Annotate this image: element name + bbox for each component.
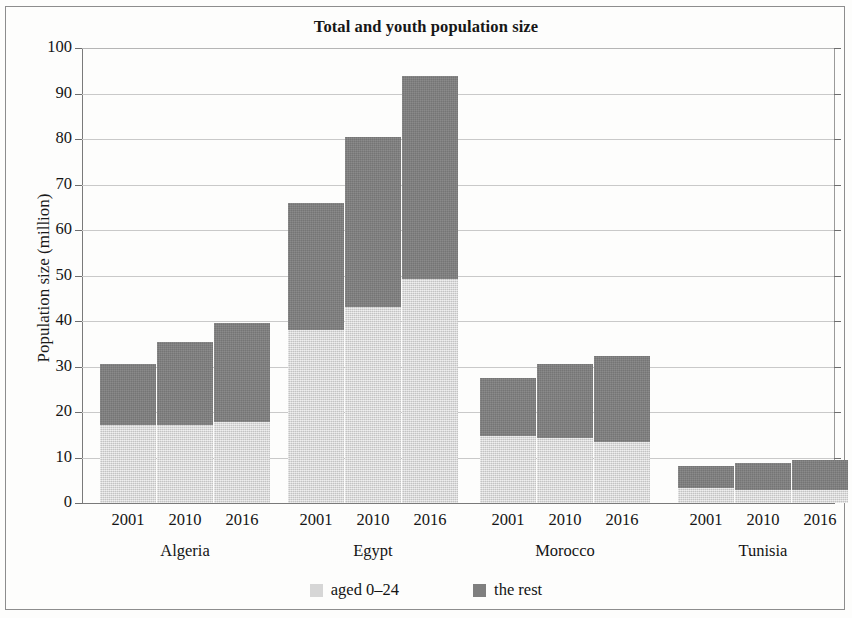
bar-segment-the-rest	[678, 466, 734, 489]
bar-segment-aged-0-24	[100, 425, 156, 503]
bar-segment-the-rest	[792, 460, 848, 490]
y-axis-tick-right	[834, 412, 841, 413]
y-axis-tick	[75, 321, 82, 322]
y-axis-tick-label: 100	[28, 39, 72, 56]
x-axis-year-label: 2016	[588, 510, 656, 530]
y-axis-tick-labels: 1009080706050403020100	[20, 0, 72, 618]
y-axis-tick-label: 90	[28, 85, 72, 102]
y-axis-tick-label: 0	[28, 494, 72, 511]
x-axis-year-label: 2016	[396, 510, 464, 530]
bar-egypt-2016	[402, 76, 458, 503]
bar-segment-aged-0-24	[735, 490, 791, 503]
y-axis-tick	[75, 503, 82, 504]
bar-segment-aged-0-24	[792, 490, 848, 503]
bar-segment-aged-0-24	[678, 488, 734, 503]
x-axis-line	[82, 503, 835, 504]
gridline	[82, 230, 834, 231]
legend-swatch-icon	[473, 584, 486, 597]
x-axis-country-label: Algeria	[80, 541, 290, 561]
bar-segment-the-rest	[214, 323, 270, 422]
y-axis-tick	[75, 230, 82, 231]
y-axis-tick-right	[834, 185, 841, 186]
y-axis-tick-label: 80	[28, 130, 72, 147]
y-axis-tick-right	[834, 321, 841, 322]
gridline	[82, 139, 834, 140]
y-axis-tick-right	[834, 139, 841, 140]
y-axis-tick	[75, 139, 82, 140]
bar-segment-aged-0-24	[537, 438, 593, 503]
y-axis-tick	[75, 458, 82, 459]
gridline	[82, 185, 834, 186]
bar-algeria-2016	[214, 323, 270, 503]
x-axis-country-label: Tunisia	[658, 541, 852, 561]
bar-segment-the-rest	[480, 378, 536, 436]
bar-segment-aged-0-24	[345, 307, 401, 503]
bar-algeria-2010	[157, 341, 213, 503]
bar-egypt-2010	[345, 137, 401, 503]
legend-label: the rest	[494, 580, 542, 600]
bar-morocco-2010	[537, 364, 593, 503]
y-axis-tick-right	[834, 458, 841, 459]
y-axis-tick	[75, 367, 82, 368]
y-axis-tick-label: 50	[28, 267, 72, 284]
bar-egypt-2001	[288, 203, 344, 503]
bar-tunisia-2010	[735, 463, 791, 503]
gridline	[82, 321, 834, 322]
x-axis-country-label: Morocco	[460, 541, 670, 561]
y-axis-tick	[75, 412, 82, 413]
bar-segment-the-rest	[594, 356, 650, 442]
y-axis-tick-label: 10	[28, 449, 72, 466]
x-axis-country-label: Egypt	[268, 541, 478, 561]
chart-legend: aged 0–24the rest	[0, 580, 852, 600]
y-axis-tick	[75, 276, 82, 277]
bar-segment-the-rest	[345, 137, 401, 308]
bar-segment-the-rest	[537, 364, 593, 438]
bar-morocco-2016	[594, 356, 650, 503]
bar-segment-the-rest	[100, 364, 156, 425]
legend-swatch-icon	[310, 584, 323, 597]
chart-title: Total and youth population size	[0, 17, 852, 37]
bar-segment-aged-0-24	[288, 330, 344, 503]
chart-figure: Total and youth population size Populati…	[0, 0, 852, 618]
plot-area	[82, 48, 834, 503]
bar-algeria-2001	[100, 364, 156, 503]
bar-segment-the-rest	[402, 76, 458, 279]
y-axis-tick-label: 40	[28, 312, 72, 329]
bar-segment-the-rest	[288, 203, 344, 330]
bar-segment-aged-0-24	[402, 279, 458, 503]
bar-segment-aged-0-24	[157, 425, 213, 503]
gridline	[82, 276, 834, 277]
y-axis-tick-right	[834, 367, 841, 368]
y-axis-tick-right	[834, 230, 841, 231]
x-axis-year-label: 2016	[786, 510, 852, 530]
y-axis-tick	[75, 48, 82, 49]
y-axis-tick	[75, 185, 82, 186]
y-axis-tick-label: 60	[28, 221, 72, 238]
gridline	[82, 94, 834, 95]
y-axis-tick-label: 70	[28, 176, 72, 193]
legend-entry-aged-0-24: aged 0–24	[310, 580, 399, 600]
x-axis-year-label: 2016	[208, 510, 276, 530]
bar-morocco-2001	[480, 378, 536, 503]
bar-tunisia-2016	[792, 460, 848, 503]
bar-segment-aged-0-24	[594, 442, 650, 503]
gridline	[82, 48, 834, 49]
y-axis-tick-label: 20	[28, 403, 72, 420]
y-axis-tick	[75, 94, 82, 95]
legend-entry-the-rest: the rest	[473, 580, 542, 600]
bar-segment-aged-0-24	[214, 422, 270, 503]
y-axis-tick-right	[834, 276, 841, 277]
bar-segment-aged-0-24	[480, 436, 536, 503]
bar-segment-the-rest	[157, 342, 213, 425]
y-axis-tick-right	[834, 48, 841, 49]
legend-label: aged 0–24	[331, 580, 399, 600]
y-axis-tick-right	[834, 94, 841, 95]
bar-tunisia-2001	[678, 466, 734, 503]
y-axis-tick-label: 30	[28, 358, 72, 375]
bar-segment-the-rest	[735, 463, 791, 490]
